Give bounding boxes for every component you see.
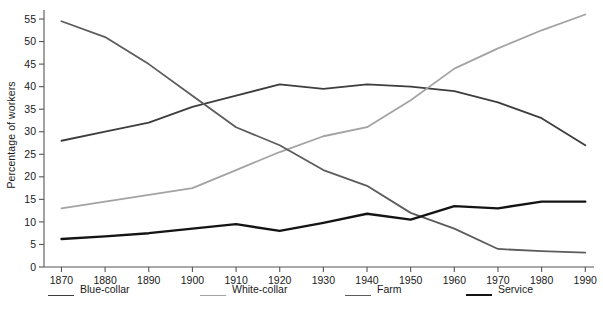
chart-legend: Blue-collarWhite-collarFarmService — [0, 289, 603, 313]
y-axis-tick-label: 45 — [24, 58, 36, 70]
x-axis-tick-label: 1930 — [312, 274, 336, 286]
x-axis-tick-label: 1950 — [399, 274, 423, 286]
series-line-service — [61, 202, 585, 239]
legend-item-blue-collar[interactable]: Blue-collar — [48, 289, 130, 301]
x-axis-tick-label: 1870 — [50, 274, 74, 286]
x-axis-tick-label: 1960 — [443, 274, 467, 286]
legend-item-white-collar[interactable]: White-collar — [200, 289, 287, 301]
y-axis-tick-label: 50 — [24, 35, 36, 47]
legend-swatch-icon — [48, 295, 74, 296]
y-axis-tick-label: 30 — [24, 125, 36, 137]
legend-item-farm[interactable]: Farm — [345, 289, 402, 301]
y-axis-tick-label: 0 — [30, 261, 36, 273]
y-axis-tick-label: 20 — [24, 170, 36, 182]
series-line-white-collar — [61, 15, 585, 209]
legend-item-label: Service — [498, 283, 533, 295]
legend-swatch-icon — [345, 295, 371, 296]
legend-swatch-icon — [466, 294, 492, 296]
legend-item-label: Farm — [377, 283, 402, 295]
legend-item-service[interactable]: Service — [466, 289, 533, 301]
y-axis-tick-label: 5 — [30, 238, 36, 250]
y-axis-tick-label: 15 — [24, 193, 36, 205]
legend-item-label: Blue-collar — [80, 283, 130, 295]
y-axis-tick-label: 35 — [24, 103, 36, 115]
y-axis-tick-label: 25 — [24, 148, 36, 160]
x-axis-tick-label: 1980 — [530, 274, 554, 286]
plot-area: 0510152025303540455055187018801890190019… — [0, 0, 603, 290]
legend-item-label: White-collar — [232, 283, 287, 295]
y-axis-tick-label: 40 — [24, 80, 36, 92]
line-chart-figure: Percentage of workers 051015202530354045… — [0, 0, 603, 313]
y-axis-tick-label: 55 — [24, 13, 36, 25]
x-axis-tick-label: 1940 — [355, 274, 379, 286]
x-axis-tick-label: 1990 — [574, 274, 598, 286]
x-axis-tick-label: 1900 — [181, 274, 205, 286]
legend-swatch-icon — [200, 295, 226, 296]
y-axis-tick-label: 10 — [24, 216, 36, 228]
x-axis-tick-label: 1890 — [137, 274, 161, 286]
